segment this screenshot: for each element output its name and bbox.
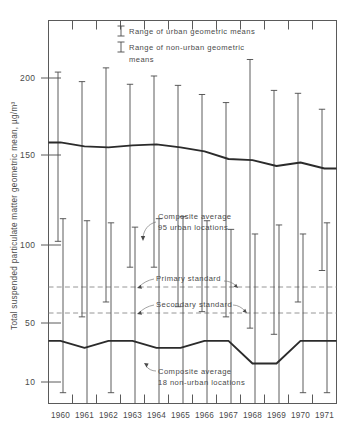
- nonurban-annotation-line2: 18 non-urban locations: [158, 378, 245, 387]
- primary-standard-label: Primary standard: [156, 274, 221, 283]
- x-tick-label-1970: 1970: [291, 411, 310, 420]
- x-tick-label-1963: 1963: [123, 411, 142, 420]
- x-tick-label-1964: 1964: [147, 411, 166, 420]
- tsp-trend-chart: Total suspended particulate matter geome…: [0, 0, 354, 437]
- nonurban-annotation-line1: Composite average: [158, 367, 232, 376]
- legend-label-nonurban-2: means: [129, 55, 154, 64]
- x-tick-label-1966: 1966: [195, 411, 214, 420]
- nonurban-annotation: Composite average 18 non-urban locations: [144, 363, 245, 387]
- y-tick-label-10: 10: [25, 377, 35, 387]
- legend-label-urban: Range of urban geometric means: [129, 27, 255, 36]
- x-tick-label-1971: 1971: [315, 411, 334, 420]
- x-tick-label-1968: 1968: [243, 411, 262, 420]
- y-tick-label-50: 50: [25, 318, 35, 328]
- urban-annotation-line1: Composite average: [158, 212, 232, 221]
- x-tick-label-1965: 1965: [171, 411, 190, 420]
- y-axis-title: Total suspended particulate matter geome…: [10, 101, 19, 330]
- legend-label-nonurban-1: Range of non-urban geometric: [129, 43, 245, 52]
- x-tick-label-1961: 1961: [75, 411, 94, 420]
- x-tick-label-1960: 1960: [51, 411, 70, 420]
- y-tick-label-200: 200: [20, 73, 35, 83]
- x-tick-label-1962: 1962: [99, 411, 118, 420]
- y-tick-label-100: 100: [20, 240, 35, 250]
- secondary-standard-label: Secondary standard: [156, 300, 232, 309]
- y-tick-label-150: 150: [20, 150, 35, 160]
- urban-annotation-line2: 95 urban locations: [158, 223, 228, 232]
- x-tick-label-1967: 1967: [219, 411, 238, 420]
- x-tick-label-1969: 1969: [267, 411, 286, 420]
